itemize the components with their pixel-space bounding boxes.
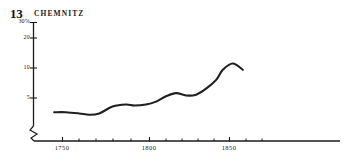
chart-canvas bbox=[0, 0, 350, 161]
data-line-chemnitz bbox=[54, 63, 243, 114]
figure-panel: 13 CHEMNITZ 30% 20 10 5 1750 1800 1850 bbox=[0, 0, 350, 161]
axis-break-icon bbox=[30, 126, 37, 141]
